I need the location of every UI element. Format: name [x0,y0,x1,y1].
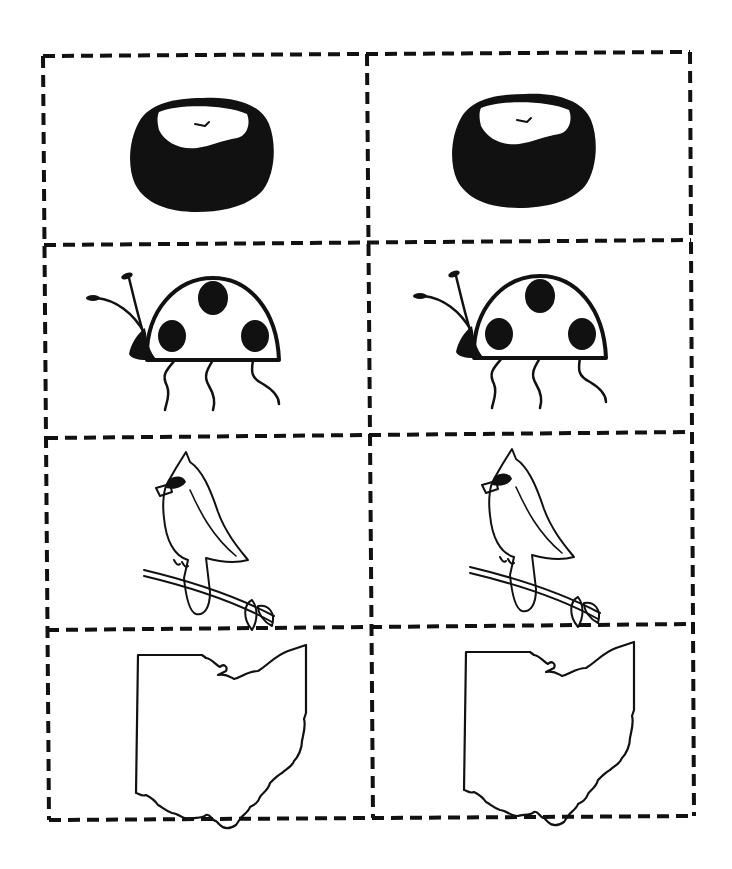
ohio-state-outline-icon [464,642,634,825]
cut-line-right [690,52,694,816]
card-sheet [0,0,732,869]
ohio-state-outline-icon [136,645,306,828]
cardinal-bird-icon [470,449,600,627]
cardinal-bird-icon [144,452,274,630]
buckeye-nut-icon [452,94,596,208]
buckeye-nut-icon [130,98,274,212]
ladybug-icon [413,269,606,408]
ladybug-icon [86,271,279,410]
